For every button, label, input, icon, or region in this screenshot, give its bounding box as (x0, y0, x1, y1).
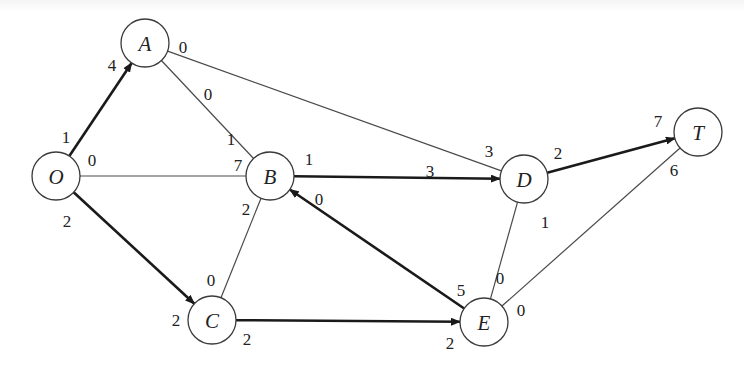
edge-capacity-label: 2 (554, 144, 563, 163)
node-label: E (477, 311, 491, 335)
edge-c-e-arrow (236, 320, 460, 322)
edge-a-b (161, 60, 253, 158)
edge-capacity-label: 0 (496, 269, 505, 288)
edge-capacity-label: 3 (426, 162, 435, 181)
edge-d-t-arrow (547, 138, 675, 172)
edge-capacity-label: 2 (446, 334, 455, 353)
node-c: C (188, 296, 236, 344)
edge-capacity-label: 2 (243, 330, 252, 349)
node-d: D (500, 155, 548, 203)
edge-capacity-label: 4 (108, 56, 117, 75)
edge-capacity-label: 0 (88, 151, 97, 170)
edge-b-d-arrow (294, 176, 500, 178)
nodes-layer: OABCDET (32, 19, 722, 346)
edge-capacity-label: 1 (541, 213, 550, 232)
node-label: C (205, 309, 220, 333)
edge-labels-layer: 140722010313200522271006 (62, 38, 679, 353)
edge-capacity-label: 1 (305, 150, 314, 169)
edge-capacity-label: 7 (234, 156, 243, 175)
node-o: O (32, 152, 80, 200)
node-label: O (48, 165, 63, 189)
network-flow-diagram: OABCDET 140722010313200522271006 (0, 0, 744, 370)
edge-capacity-label: 0 (315, 190, 324, 209)
edge-capacity-label: 0 (179, 38, 188, 57)
node-label: B (264, 165, 277, 189)
edge-capacity-label: 2 (172, 311, 181, 330)
edge-capacity-label: 0 (204, 85, 213, 104)
node-b: B (246, 152, 294, 200)
edge-capacity-label: 2 (242, 200, 251, 219)
edge-capacity-label: 0 (207, 271, 216, 290)
node-label: A (137, 32, 152, 56)
node-label: D (515, 168, 531, 192)
edge-capacity-label: 7 (654, 112, 663, 131)
node-label: T (692, 121, 705, 145)
edge-capacity-label: 5 (457, 281, 466, 300)
edge-capacity-label: 0 (517, 301, 526, 320)
node-a: A (121, 19, 169, 67)
edge-o-a-arrow (69, 63, 131, 156)
edge-capacity-label: 6 (670, 161, 679, 180)
edge-o-c-arrow (74, 192, 195, 303)
edge-a-d (168, 51, 502, 171)
edge-capacity-label: 3 (485, 142, 494, 161)
edge-capacity-label: 2 (63, 212, 72, 231)
edge-capacity-label: 1 (227, 130, 236, 149)
edge-capacity-label: 1 (62, 128, 71, 147)
node-e: E (460, 298, 508, 346)
edges-layer (69, 51, 680, 322)
node-t: T (674, 108, 722, 156)
